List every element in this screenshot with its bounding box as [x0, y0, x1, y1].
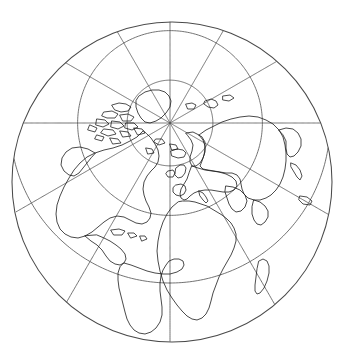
- map-outer-limb: [12, 22, 332, 342]
- polar-map-figure: [0, 0, 346, 357]
- map-svg: [0, 0, 346, 357]
